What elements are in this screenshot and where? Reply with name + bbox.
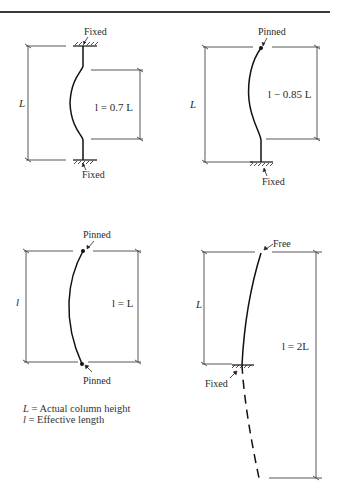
actual-height-label: L [18,97,25,109]
effective-length-label: l = 0.7 L [95,101,133,113]
support-label-bottom: Fixed [205,378,228,389]
actual-height-label: L [189,98,196,110]
panel-pinned-pinned: l Pinned Pinned l = L [16,229,141,386]
effective-length-label: l = 2L [282,340,309,352]
panel-pinned-fixed: L Pinned Fixed l − 0.85 L [189,26,320,187]
support-label-top: Pinned [83,229,111,240]
legend-item-effective-length: l = Effective length [23,414,130,425]
effective-length-label: l − 0.85 L [268,88,312,100]
effective-length-label: l = L [112,297,134,309]
actual-height-label: L [195,298,202,310]
legend-item-actual-height: L = Actual column height [23,403,130,414]
support-label-bottom: Fixed [262,176,285,187]
panel-free-fixed: L Free Fixed l = 2L [195,238,322,480]
support-label-top: Pinned [258,26,286,37]
support-label-top: Free [273,238,291,249]
panel-fixed-fixed: L Fixed Fixed l = 0.7 L [18,26,143,180]
support-label-bottom: Fixed [82,169,105,180]
legend: L = Actual column height l = Effective l… [23,403,130,425]
actual-height-label: l [16,296,19,308]
support-label-top: Fixed [84,26,107,37]
support-label-bottom: Pinned [83,375,111,386]
